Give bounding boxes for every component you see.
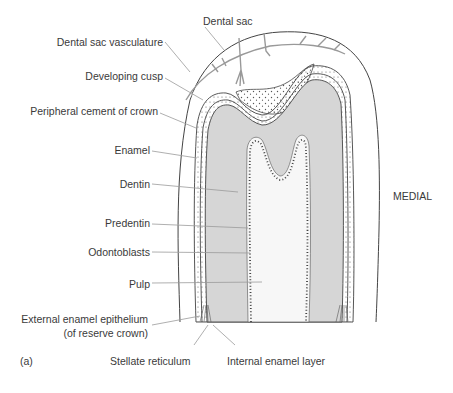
- label-stellate-reticulum: Stellate reticulum: [110, 355, 191, 367]
- label-enamel: Enamel: [114, 144, 150, 156]
- label-dental-sac-vasculature: Dental sac vasculature: [57, 36, 163, 48]
- label-pulp: Pulp: [129, 278, 150, 290]
- label-internal-enamel-layer: Internal enamel layer: [227, 355, 325, 367]
- label-dentin: Dentin: [120, 178, 150, 190]
- label-external-enamel-1: External enamel epithelium: [21, 313, 148, 325]
- label-peripheral-cement: Peripheral cement of crown: [30, 105, 158, 117]
- label-external-enamel-2: (of reserve crown): [63, 327, 148, 339]
- label-medial: MEDIAL: [393, 190, 432, 202]
- label-developing-cusp: Developing cusp: [85, 70, 163, 82]
- label-predentin: Predentin: [105, 217, 150, 229]
- panel-label: (a): [20, 355, 33, 367]
- label-odontoblasts: Odontoblasts: [88, 246, 150, 258]
- label-dental-sac: Dental sac: [203, 15, 253, 27]
- tooth-diagram: Dental sac Dental sac vasculature Develo…: [0, 0, 453, 393]
